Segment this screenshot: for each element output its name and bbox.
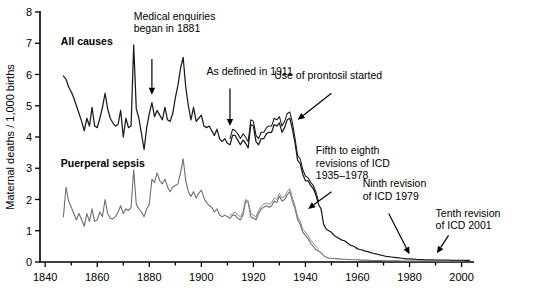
y-tick-label: 4 — [26, 131, 32, 143]
annotation-arrow-line — [303, 93, 331, 115]
annotation-text: Use of prontosil started — [274, 69, 382, 81]
y-tick-label: 8 — [26, 6, 32, 18]
annotation-text: Fifth to eighth — [316, 144, 380, 156]
annotation-arrow-head — [149, 88, 155, 95]
x-tick-label: 1920 — [241, 271, 265, 283]
annotation-text: Ninth revision — [363, 177, 427, 189]
chart-figure: 0123456781840186018801900192019401960198… — [0, 0, 553, 300]
series-label-puerperal-sepsis: Puerperal sepsis — [61, 157, 145, 169]
annotation-text: 1935–1978 — [316, 169, 369, 181]
annotation-arrow-head — [227, 119, 233, 126]
annotation-arrow-head — [298, 113, 305, 120]
y-tick-label: 5 — [26, 100, 32, 112]
annotation-arrow-head — [308, 202, 316, 209]
y-axis-title: Maternal deaths / 1,000 births — [4, 64, 16, 210]
x-tick-label: 1960 — [345, 271, 369, 283]
annotation-text: revisions of ICD — [316, 157, 391, 169]
x-tick-label: 1980 — [397, 271, 421, 283]
annotation-tenth-icd: Tenth revisionof ICD 2001 — [436, 207, 501, 254]
y-tick-label: 2 — [26, 194, 32, 206]
data-series — [63, 45, 469, 262]
annotation-prontosil: Use of prontosil started — [274, 69, 382, 120]
y-tick-label: 7 — [26, 37, 32, 49]
x-tick-label: 1860 — [85, 271, 109, 283]
annotation-text: Medical enquiries — [134, 10, 216, 22]
x-tick-label: 1940 — [293, 271, 317, 283]
annotation-text: began in 1881 — [134, 22, 201, 34]
annotation-ninth-icd: Ninth revisionof ICD 1979 — [363, 177, 427, 254]
y-tick-label: 0 — [26, 256, 32, 268]
y-tick-label: 6 — [26, 69, 32, 81]
annotation-arrow-line — [389, 214, 407, 248]
annotation-arrow-line — [441, 235, 449, 247]
x-tick-label: 1880 — [137, 271, 161, 283]
x-tick-label: 2000 — [449, 271, 473, 283]
maternal-mortality-line-chart: 0123456781840186018801900192019401960198… — [0, 0, 553, 300]
series-line-3 — [230, 189, 318, 249]
annotation-arrow-head — [437, 246, 444, 254]
annotation-medical-enquiries: Medical enquiriesbegan in 1881 — [134, 10, 216, 95]
x-tick-label: 1900 — [189, 271, 213, 283]
annotation-text: of ICD 1979 — [363, 190, 419, 202]
annotation-text: of ICD 2001 — [436, 219, 492, 231]
series-line-0 — [63, 45, 469, 261]
annotations: Medical enquiriesbegan in 1881As defined… — [134, 10, 501, 254]
annotation-text: Tenth revision — [436, 207, 501, 219]
y-tick-label: 1 — [26, 225, 32, 237]
x-tick-label: 1840 — [33, 271, 57, 283]
y-tick-label: 3 — [26, 162, 32, 174]
series-line-2 — [63, 159, 464, 262]
series-label-all-causes: All causes — [61, 35, 113, 47]
